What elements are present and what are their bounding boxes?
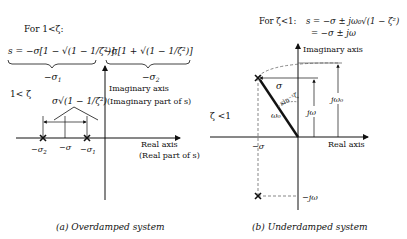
root-s1-equation: s = −σ[1 − √(1 − 1/ζ²)], xyxy=(8,46,118,56)
omega0-label: ω₀ xyxy=(271,111,282,120)
imag-axis-label-b: Imaginary axis xyxy=(303,45,363,54)
panel-a-heading: For 1<ζ: xyxy=(24,24,64,34)
spread-pointer-right xyxy=(74,107,98,120)
panel-overdamped: For 1<ζ: s = −σ[1 − √(1 − 1/ζ²)], −σ[1 +… xyxy=(8,24,200,232)
panel-b-heading: For ζ<1: xyxy=(259,16,296,26)
neg-sigma-tick: −σ xyxy=(252,142,265,151)
jomega0-label: jω₀ xyxy=(329,95,344,104)
root-equation-line2: = −σ ± jω xyxy=(311,28,356,38)
tick-neg-sigma1: −σ1 xyxy=(80,145,96,155)
underbrace-s1 xyxy=(8,60,96,68)
spread-pointer-left xyxy=(54,107,74,120)
real-axis-label-a: Real axis xyxy=(141,140,178,149)
root-equation-line1: s = −σ ± jω₀√(1 − ζ²) xyxy=(306,16,399,26)
imag-axis-sublabel-a: (Imaginary part of s) xyxy=(107,97,191,106)
root-s2-equation: −σ[1 + √(1 − 1/ζ²)] xyxy=(104,46,193,56)
pole-diagram-canvas: For 1<ζ: s = −σ[1 − √(1 − 1/ζ²)], −σ[1 +… xyxy=(0,0,407,239)
neg-jomega-label: −jω xyxy=(302,193,318,202)
label-neg-sigma2: −σ2 xyxy=(142,72,160,83)
caption-overdamped: (a) Overdamped system xyxy=(56,222,165,232)
real-axis-sublabel-a: (Real part of s) xyxy=(139,151,200,160)
condition-overdamped: 1< ζ xyxy=(10,89,31,99)
tick-neg-sigma2: −σ2 xyxy=(31,145,47,155)
pole-spread-label: σ√(1 − 1/ζ²) xyxy=(52,96,108,106)
panel-underdamped: For ζ<1: s = −σ ± jω₀√(1 − ζ²) = −σ ± jω… xyxy=(210,16,399,232)
angle-label: sin⁻¹ζ xyxy=(279,91,300,107)
underbrace-s2 xyxy=(106,60,190,68)
sigma-label: σ xyxy=(276,81,283,91)
real-axis-label-b: Real axis xyxy=(328,140,365,149)
label-neg-sigma1: −σ1 xyxy=(44,72,62,83)
caption-underdamped: (b) Underdamped system xyxy=(252,222,368,232)
imag-axis-label-a: Imaginary axis xyxy=(109,84,169,93)
tick-neg-sigma: −σ xyxy=(59,143,72,152)
condition-underdamped: ζ <1 xyxy=(210,111,231,121)
jomega-label: jω xyxy=(305,108,316,117)
